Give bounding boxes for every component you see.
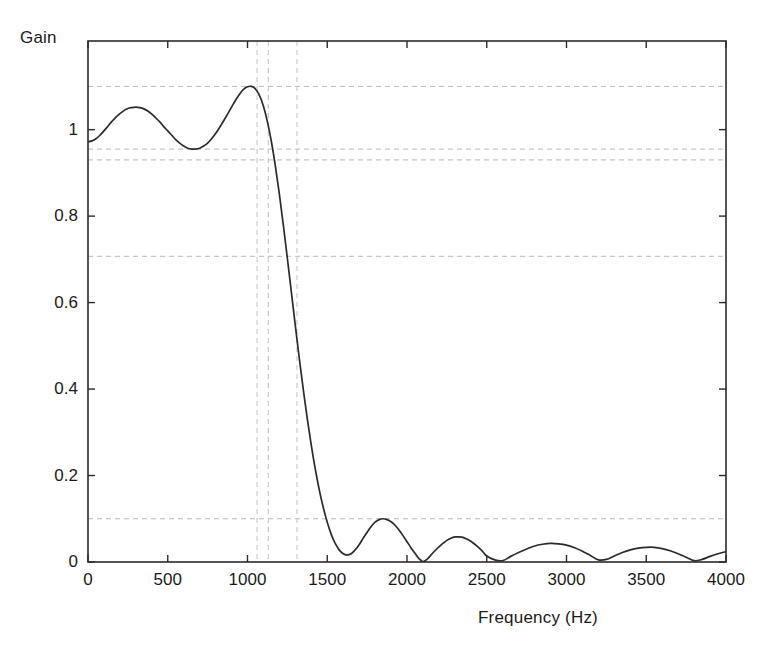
axis-frame [88, 41, 726, 562]
gridlines [88, 41, 726, 562]
plot-frame [88, 41, 726, 562]
plot-canvas [0, 0, 775, 654]
tick-marks [88, 41, 726, 562]
response-curve [88, 86, 726, 561]
frequency-response-chart: Gain Frequency (Hz) 05001000150020002500… [0, 0, 775, 654]
series-line-0 [88, 86, 726, 561]
